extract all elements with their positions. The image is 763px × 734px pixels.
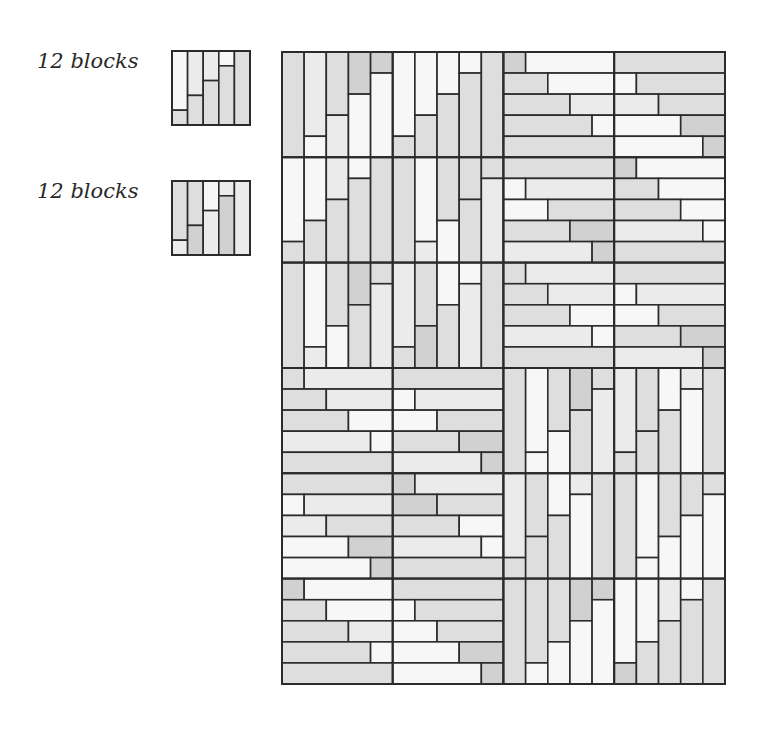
block [393,579,504,684]
strip-segment [570,305,614,326]
strip-segment [526,178,615,199]
strip-segment [393,494,437,515]
block [614,157,725,262]
strip-segment [504,199,548,220]
strip-segment [636,368,658,431]
strip-segment [282,579,304,600]
strip-segment [681,579,703,600]
strip-segment [282,642,371,663]
block [614,368,725,473]
strip-segment [304,494,393,515]
strip-segment [172,181,188,240]
strip-segment [282,410,348,431]
strip-segment [393,263,415,347]
strip-segment [659,473,681,536]
strip [504,347,615,368]
strip-segment [393,347,415,368]
strip-segment [459,73,481,157]
strip-segment [504,242,593,263]
strip-segment [681,199,725,220]
strip [614,52,725,73]
strip-segment [348,305,370,368]
strip-segment [703,136,725,157]
strip-segment [614,199,680,220]
strip [614,473,636,578]
strip-segment [570,410,592,473]
strip-segment [592,579,614,600]
strip-segment [282,157,304,241]
strip-segment [326,515,392,536]
strip-segment [415,263,437,326]
strip-segment [393,52,415,136]
strip-segment [172,240,188,255]
strip [504,136,615,157]
strip-segment [548,73,614,94]
strip-segment [437,52,459,94]
strip-segment [304,157,326,220]
strip-segment [282,494,304,515]
strip [234,51,250,125]
block [393,157,504,262]
strip-segment [437,621,503,642]
strip-segment [393,621,437,642]
strip-segment [415,242,437,263]
strip [282,452,393,473]
strip-segment [659,178,725,199]
strip-segment [219,196,235,255]
strip-segment [636,579,658,642]
strip-segment [659,368,681,410]
block [393,52,504,157]
strip-segment [614,221,703,242]
strip-segment [459,642,503,663]
strip-segment [570,621,592,684]
strip-segment [614,178,658,199]
strip-segment [371,642,393,663]
strip [282,663,393,684]
strip-segment [570,473,592,494]
strip-segment [415,389,504,410]
block [614,473,725,578]
block [504,368,615,473]
strip-segment [459,263,481,284]
block [282,263,393,368]
strip-segment [371,431,393,452]
strip-segment [348,178,370,262]
strip-segment [526,52,615,73]
strip-segment [636,284,725,305]
strip-segment [203,181,219,211]
strip-segment [481,157,503,178]
block [282,473,393,578]
strip-segment [636,473,658,557]
strip-segment [203,51,219,81]
strip-segment [393,452,482,473]
strip-segment [548,579,570,642]
block [614,579,725,684]
strip-segment [459,52,481,73]
strip-segment [393,389,415,410]
strip-segment [526,537,548,579]
strip-segment [504,558,526,579]
strip-segment [592,600,614,684]
strip-segment [548,284,614,305]
strip-segment [437,94,459,157]
strip-segment [636,642,658,684]
strip-segment [504,284,548,305]
strip-segment [304,136,326,157]
strip-segment [348,263,370,305]
strip-segment [415,52,437,115]
strip [614,242,725,263]
strip-segment [437,494,503,515]
block [393,368,504,473]
strip-segment [703,347,725,368]
strip-segment [481,663,503,684]
strip-segment [393,515,459,536]
strip-segment [415,157,437,241]
strip [504,579,526,684]
block [504,473,615,578]
strip-segment [703,494,725,578]
strip-segment [304,368,393,389]
strip-segment [592,115,614,136]
strip-segment [659,94,725,115]
strip [703,579,725,684]
strip-segment [526,579,548,663]
